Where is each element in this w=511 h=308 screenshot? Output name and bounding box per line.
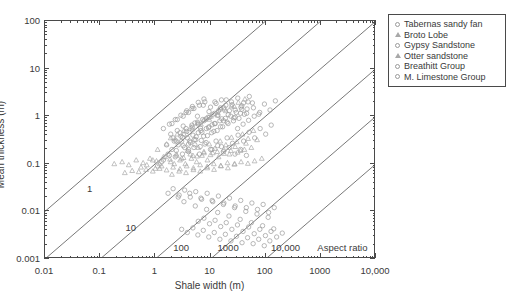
legend-label: Tabernas sandy fan — [404, 19, 483, 29]
x-tick-top — [83, 20, 84, 23]
x-tick — [125, 256, 126, 259]
data-point — [215, 149, 220, 153]
x-tick-top — [193, 20, 194, 23]
data-point — [144, 167, 149, 171]
x-tick — [77, 256, 78, 259]
y-tick — [44, 148, 47, 149]
x-tick — [188, 256, 189, 259]
data-point — [262, 244, 266, 248]
data-point — [251, 106, 255, 110]
legend-item-1[interactable]: Broto Lobe — [393, 30, 502, 41]
y-tick-right — [373, 167, 376, 168]
x-tick-top — [336, 20, 337, 23]
x-tick — [236, 256, 237, 259]
data-point — [193, 143, 197, 147]
data-point — [269, 123, 273, 127]
data-point — [255, 212, 259, 216]
data-point — [134, 158, 139, 162]
x-tick-top — [317, 20, 318, 23]
marker-glyph — [395, 22, 400, 27]
x-tick-label: 0.1 — [93, 265, 106, 276]
data-point — [184, 170, 189, 174]
y-tick-right — [373, 170, 376, 171]
y-tick — [44, 87, 47, 88]
legend-item-4[interactable]: Breathitt Group — [393, 61, 502, 72]
x-tick-top — [207, 20, 208, 23]
data-point — [219, 98, 223, 102]
y-tick — [44, 123, 47, 124]
x-tick — [204, 256, 205, 259]
y-tick-right — [373, 53, 376, 54]
data-point — [235, 223, 239, 227]
data-point — [229, 135, 234, 139]
data-point — [257, 237, 261, 241]
y-tick — [44, 117, 47, 118]
legend-item-0[interactable]: Tabernas sandy fan — [393, 19, 502, 30]
x-tick — [193, 256, 194, 259]
data-point — [207, 222, 211, 226]
x-tick — [142, 256, 143, 259]
y-tick-right — [370, 68, 375, 69]
data-point — [215, 210, 219, 214]
y-tick-right — [373, 75, 376, 76]
y-tick-label: 10 — [29, 62, 40, 73]
data-point — [212, 167, 217, 171]
x-tick-top — [181, 20, 182, 23]
data-point — [192, 145, 196, 149]
data-point — [266, 210, 270, 214]
data-point — [225, 160, 230, 164]
y-tick — [44, 170, 47, 171]
circle-marker-icon — [393, 40, 404, 50]
x-tick-top — [132, 20, 133, 23]
y-tick-right — [373, 22, 376, 23]
x-tick-top — [94, 20, 95, 23]
data-point — [185, 148, 190, 152]
y-tick-right — [373, 123, 376, 124]
x-tick — [207, 256, 208, 259]
series-5 — [166, 186, 285, 247]
marker-glyph — [395, 53, 401, 58]
y-tick-right — [373, 87, 376, 88]
x-tick-top — [298, 20, 299, 23]
x-tick — [97, 256, 98, 259]
data-point — [266, 215, 270, 219]
legend-item-5[interactable]: M. Limestone Group — [393, 72, 502, 83]
data-point — [170, 172, 175, 176]
y-tick — [44, 196, 47, 197]
data-point — [251, 128, 256, 132]
x-tick-top — [125, 20, 126, 23]
legend-item-2[interactable]: Gypsy Sandstone — [393, 40, 502, 51]
data-point — [273, 99, 277, 103]
data-point — [241, 139, 245, 143]
x-tick-top — [311, 20, 312, 23]
x-tick-top — [197, 20, 198, 23]
data-point — [218, 163, 223, 167]
aspect-ratio-label: 1 — [87, 183, 92, 194]
x-tick — [291, 256, 292, 259]
legend-item-3[interactable]: Otter sandstone — [393, 51, 502, 62]
data-point — [227, 214, 231, 218]
y-tick-right — [373, 177, 376, 178]
data-point — [198, 169, 203, 173]
y-tick — [44, 177, 47, 178]
data-point — [226, 166, 231, 170]
x-tick — [336, 256, 337, 259]
x-tick — [152, 256, 153, 259]
x-tick-top — [70, 20, 71, 23]
data-point — [258, 126, 262, 130]
x-tick — [311, 256, 312, 259]
data-point — [170, 121, 174, 125]
data-point — [246, 100, 250, 104]
x-tick — [146, 256, 147, 259]
y-tick-right — [373, 31, 376, 32]
x-axis-title: Shale width (m) — [44, 280, 375, 291]
x-tick — [91, 256, 92, 259]
y-tick-right — [373, 196, 376, 197]
y-tick — [44, 68, 49, 69]
aspect-ratio-label: 100 — [173, 242, 189, 253]
data-point — [207, 109, 211, 113]
data-point — [201, 228, 205, 232]
data-point — [185, 230, 189, 234]
data-point — [246, 118, 250, 122]
x-tick-label: 10,000 — [360, 265, 389, 276]
